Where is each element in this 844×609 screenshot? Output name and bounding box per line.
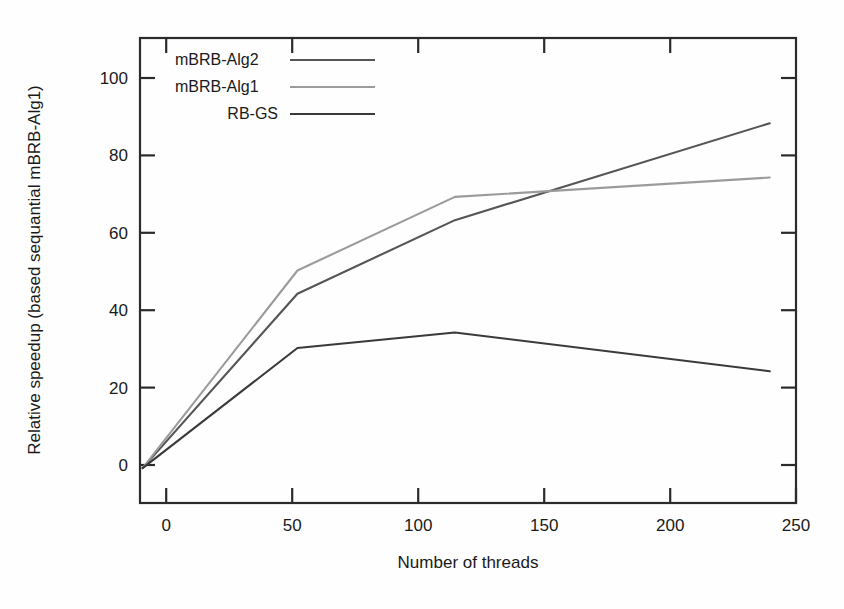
series-line-mbrb-alg2 [143,123,770,468]
y-tick-label: 0 [119,456,128,475]
y-tick-labels: 0 20 40 60 80 100 [100,69,128,475]
y-tick-label: 40 [109,301,128,320]
series-line-mbrb-alg1 [143,178,770,469]
x-tick-label: 250 [782,516,810,535]
series-line-rb-gs [143,333,770,469]
speedup-line-chart: 0 20 40 60 80 100 0 50 100 150 200 250 N… [0,0,844,609]
legend-label-mbrb-alg1: mBRB-Alg1 [175,78,259,95]
chart-figure: 0 20 40 60 80 100 0 50 100 150 200 250 N… [0,0,844,609]
x-axis-title: Number of threads [398,553,539,572]
y-axis-ticks-right [781,78,796,465]
x-tick-label: 200 [656,516,684,535]
y-tick-label: 100 [100,69,128,88]
chart-legend: mBRB-Alg2 mBRB-Alg1 RB-GS [175,51,375,122]
x-tick-label: 50 [283,516,302,535]
y-tick-label: 80 [109,146,128,165]
x-tick-label: 150 [530,516,558,535]
y-axis-ticks [140,78,155,465]
y-tick-label: 60 [109,224,128,243]
y-axis-title: Relative speedup (based sequantial mBRB-… [25,85,44,454]
x-axis-ticks [166,488,796,503]
y-tick-label: 20 [109,379,128,398]
series-group [143,123,770,468]
legend-label-rb-gs: RB-GS [227,105,278,122]
x-tick-label: 0 [161,516,170,535]
legend-label-mbrb-alg2: mBRB-Alg2 [175,51,259,68]
x-tick-label: 100 [404,516,432,535]
x-tick-labels: 0 50 100 150 200 250 [161,516,810,535]
